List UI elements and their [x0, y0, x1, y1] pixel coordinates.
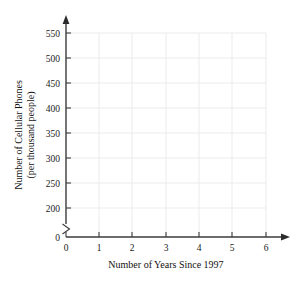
ytick-label-200: 200 [46, 204, 61, 214]
ytick-label-400: 400 [46, 104, 61, 114]
ytick-label-0: 0 [55, 233, 60, 243]
chart-figure: 550 500 450 400 350 300 250 200 0 0 1 2 … [0, 0, 304, 285]
xtick-label-1: 1 [97, 243, 102, 253]
chart-background [0, 0, 304, 285]
xtick-label-2: 2 [130, 243, 135, 253]
y-axis-title-line2: (per thousand people) [25, 91, 37, 178]
xtick-label-3: 3 [164, 243, 169, 253]
xtick-label-6: 6 [264, 243, 269, 253]
ytick-label-300: 300 [46, 154, 61, 164]
y-axis-tick-labels: 550 500 450 400 350 300 250 200 0 [46, 29, 61, 243]
ytick-label-550: 550 [46, 29, 61, 39]
xtick-label-0: 0 [64, 243, 69, 253]
xtick-label-4: 4 [197, 243, 202, 253]
xtick-label-5: 5 [230, 243, 235, 253]
y-axis-title-line1: Number of Cellular Phones [13, 80, 24, 190]
x-axis-title: Number of Years Since 1997 [108, 259, 223, 270]
ytick-label-350: 350 [46, 129, 61, 139]
ytick-label-250: 250 [46, 179, 61, 189]
ytick-label-500: 500 [46, 54, 61, 64]
chart-svg: 550 500 450 400 350 300 250 200 0 0 1 2 … [0, 0, 304, 285]
ytick-label-450: 450 [46, 79, 61, 89]
